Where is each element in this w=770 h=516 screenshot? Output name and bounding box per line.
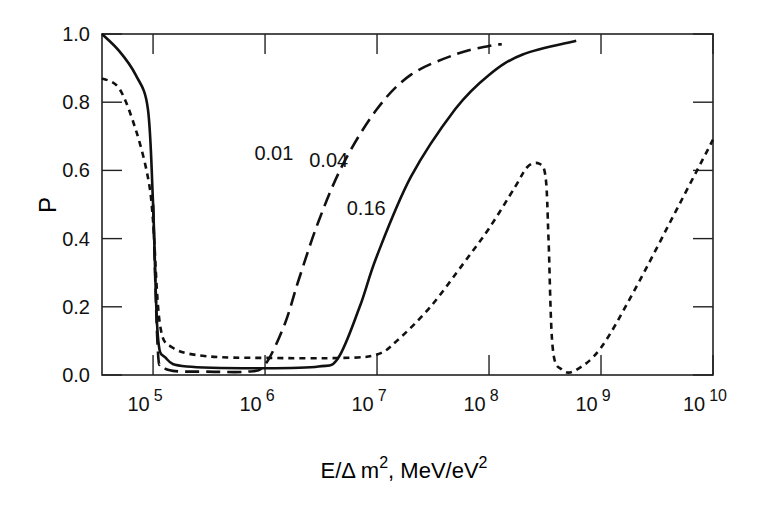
- x-tick-label: 107: [351, 387, 386, 415]
- probability-chart: 0.00.20.40.60.81.0 1051061071081091010 0…: [0, 0, 770, 516]
- x-axis-ticks: 1051061071081091010: [127, 34, 727, 415]
- y-tick-label: 0.0: [62, 364, 90, 386]
- curve-label: 0.16: [347, 197, 386, 219]
- data-series: [102, 34, 713, 373]
- x-axis-label: E/Δ m2, MeV/eV2: [320, 454, 487, 483]
- plot-frame: [102, 34, 713, 375]
- y-axis-label: P: [34, 197, 61, 213]
- y-axis-ticks: 0.00.20.40.60.81.0: [62, 23, 713, 386]
- x-tick-label: 108: [463, 387, 498, 415]
- y-tick-label: 0.2: [62, 296, 90, 318]
- y-tick-label: 1.0: [62, 23, 90, 45]
- y-tick-label: 0.8: [62, 91, 90, 113]
- y-tick-label: 0.6: [62, 159, 90, 181]
- x-tick-label: 105: [127, 387, 162, 415]
- curve-label: 0.04: [309, 149, 348, 171]
- series-0.16: [102, 78, 713, 372]
- curve-labels: 0.010.040.16: [254, 142, 385, 219]
- x-tick-label: 106: [239, 387, 274, 415]
- series-0.01: [153, 44, 502, 372]
- x-tick-label: 109: [575, 387, 610, 415]
- curve-label: 0.01: [254, 142, 293, 164]
- y-tick-label: 0.4: [62, 228, 90, 250]
- x-tick-label: 1010: [683, 387, 727, 415]
